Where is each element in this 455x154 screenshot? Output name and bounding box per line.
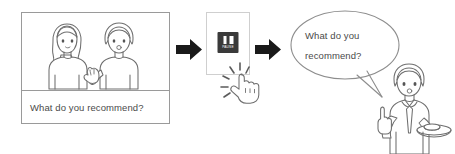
panel-illustration xyxy=(22,13,169,91)
panel-caption: What do you recommend? xyxy=(22,92,169,123)
arrow-2 xyxy=(255,39,281,60)
two-people-talking-illustration xyxy=(22,13,169,90)
tap-hand-icon xyxy=(218,60,270,112)
tap-gesture xyxy=(218,60,270,112)
pause-icon xyxy=(223,36,233,44)
video-frame-panel: What do you recommend? xyxy=(21,12,170,124)
pause-button-label: PAUSE xyxy=(222,45,234,49)
waiter-illustration xyxy=(372,60,454,154)
speech-line-1: What do you xyxy=(305,26,388,46)
diagram-canvas: What do you recommend? PAUSE xyxy=(0,0,455,154)
waiter-character xyxy=(372,60,454,154)
arrow-right-icon xyxy=(176,39,202,60)
arrow-right-icon xyxy=(255,39,281,60)
arrow-1 xyxy=(176,39,202,60)
pause-button[interactable]: PAUSE xyxy=(218,32,239,53)
